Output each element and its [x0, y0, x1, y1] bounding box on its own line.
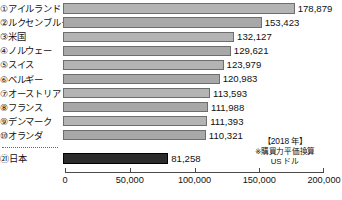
- bar-track: 111,393: [63, 115, 342, 129]
- chart-row: ④ノルウェー129,621: [0, 44, 342, 58]
- category-label: ⑤スイス: [0, 60, 63, 70]
- x-axis-tick: [130, 168, 131, 172]
- category-label: ④ノルウェー: [0, 46, 63, 56]
- category-label: ⑧フランス: [0, 103, 63, 113]
- category-label: ①アイルランド: [0, 4, 63, 14]
- chart-row: ⑥ベルギー120,983: [0, 72, 342, 86]
- rank-number: ③: [0, 32, 8, 42]
- chart-row: ⑧フランス111,988: [0, 101, 342, 115]
- category-label: ⑦オーストリア: [0, 89, 63, 99]
- bar: [63, 3, 295, 13]
- country-name: オーストリア: [8, 89, 61, 99]
- annotation-unit: US ドル: [233, 157, 337, 167]
- bar-track: 153,423: [63, 16, 342, 30]
- bar-value-label: 120,983: [223, 72, 258, 86]
- chart-row: ③米国132,127: [0, 30, 342, 44]
- country-name: ルクセンブルク: [8, 18, 70, 28]
- chart-row: ⑦オーストリア113,593: [0, 87, 342, 101]
- dotted-separator-line: [2, 147, 58, 148]
- rank-number: ⑧: [0, 103, 8, 113]
- bar-value-label: 132,127: [237, 30, 272, 44]
- x-axis-tick-label: 150,000: [243, 175, 276, 186]
- bar-track: 178,879: [63, 2, 342, 16]
- x-axis-tick-label: 0: [62, 175, 67, 186]
- rank-number: ④: [0, 46, 8, 56]
- rank-number: ①: [0, 4, 8, 14]
- rank-number: ⑩: [0, 131, 8, 141]
- bar: [63, 102, 208, 112]
- rank-number: ②: [0, 18, 8, 28]
- bar-track: 129,621: [63, 44, 342, 58]
- country-name: スイス: [8, 60, 34, 70]
- bar-track: 113,593: [63, 87, 342, 101]
- bar: [63, 32, 234, 42]
- bar-highlighted: [63, 153, 168, 163]
- x-axis-line: [65, 172, 324, 173]
- bar-value-label: 178,879: [298, 2, 333, 16]
- bar: [63, 130, 206, 140]
- bar: [63, 60, 224, 70]
- bar-value-label: 123,979: [227, 58, 262, 72]
- rank-number: ⑤: [0, 60, 8, 70]
- x-axis-tick-label: 200,000: [307, 175, 340, 186]
- chart-row: ⑨デンマーク111,393: [0, 115, 342, 129]
- category-label: ③米国: [0, 32, 63, 42]
- annotation-year: 【2018 年】: [233, 136, 337, 147]
- category-label: ⑥ベルギー: [0, 75, 63, 85]
- country-name: フランス: [8, 103, 43, 113]
- bar-chart: ①アイルランド178,879②ルクセンブルク153,423③米国132,127④…: [0, 0, 342, 200]
- chart-row: ②ルクセンブルク153,423: [0, 16, 342, 30]
- bar-track: 123,979: [63, 58, 342, 72]
- country-name: 日本: [9, 154, 27, 164]
- bar: [63, 74, 220, 84]
- country-name: アイルランド: [8, 4, 61, 14]
- x-axis-tick: [65, 168, 66, 172]
- x-axis: 050,000100,000150,000200,000: [65, 172, 324, 198]
- rank-number: ㉑: [0, 154, 9, 164]
- category-label: ⑨デンマーク: [0, 117, 63, 127]
- bar-value-label: 111,988: [211, 101, 244, 115]
- x-axis-tick: [195, 168, 196, 172]
- rank-number: ⑨: [0, 117, 8, 127]
- country-name: 米国: [8, 32, 26, 42]
- bar-value-label: 153,423: [265, 16, 300, 30]
- country-name: デンマーク: [8, 117, 52, 127]
- bar-value-label: 81,258: [171, 152, 200, 166]
- category-label: ㉑日本: [0, 154, 63, 164]
- rank-number: ⑥: [0, 75, 8, 85]
- bar-value-label: 129,621: [234, 44, 269, 58]
- bar-track: 132,127: [63, 30, 342, 44]
- x-axis-tick-label: 100,000: [178, 175, 211, 186]
- country-name: オランダ: [8, 131, 43, 141]
- category-label: ②ルクセンブルク: [0, 18, 63, 28]
- bar-value-label: 113,593: [213, 87, 247, 101]
- category-label: ⑩オランダ: [0, 131, 63, 141]
- x-axis-tick: [323, 168, 324, 172]
- rank-number: ⑦: [0, 89, 8, 99]
- x-axis-tick: [259, 168, 260, 172]
- x-axis-tick-label: 50,000: [116, 175, 144, 186]
- bar-value-label: 111,393: [210, 115, 243, 129]
- chart-row: ⑤スイス123,979: [0, 58, 342, 72]
- country-name: ノルウェー: [8, 46, 52, 56]
- country-name: ベルギー: [8, 75, 43, 85]
- bar: [63, 46, 231, 56]
- annotation-note: ※購買力平価換算: [233, 147, 337, 157]
- bar: [63, 116, 207, 126]
- bar: [63, 88, 210, 98]
- bar-track: 111,988: [63, 101, 342, 115]
- bar-track: 120,983: [63, 72, 342, 86]
- chart-annotation: 【2018 年】 ※購買力平価換算 US ドル: [233, 136, 337, 167]
- bar: [63, 17, 262, 27]
- chart-row: ①アイルランド178,879: [0, 2, 342, 16]
